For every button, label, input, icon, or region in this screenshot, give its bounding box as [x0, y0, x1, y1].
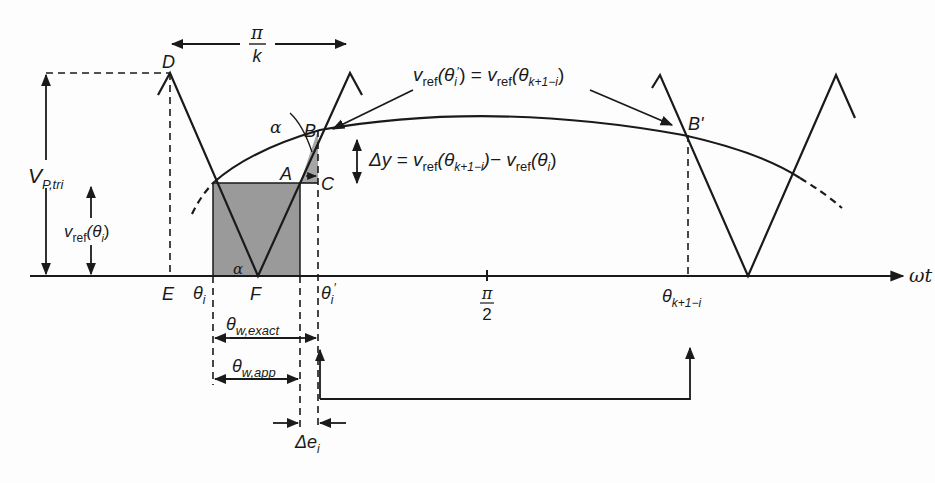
- label-theta-k1i: θk+1−i: [662, 286, 701, 310]
- pointer-to-B-prime: [590, 90, 672, 125]
- label-delta-e-i: Δei: [294, 432, 320, 456]
- diagram-svg: π k D E F A B C B' α α VP,tri vref(θi) v…: [0, 0, 935, 483]
- reference-curve-dashed-end: [800, 178, 842, 208]
- label-theta-w-app: θw,app: [232, 356, 276, 380]
- shaded-pulse-area: [213, 183, 300, 276]
- carrier-wave-right: [652, 75, 855, 276]
- label-theta-i: θi: [193, 283, 206, 307]
- label-pi-half-num: π: [481, 284, 493, 303]
- reference-curve-dashed-start: [192, 183, 213, 214]
- label-B-prime: B': [688, 114, 704, 134]
- mapping-bracket-line: [320, 348, 690, 399]
- label-theta-w-exact: θw,exact: [226, 314, 281, 338]
- label-pi-half-den: 2: [482, 305, 491, 324]
- label-B: B: [304, 121, 316, 141]
- pi-k-numerator: π: [250, 22, 264, 43]
- label-E: E: [162, 284, 175, 304]
- label-alpha-lower: α: [233, 260, 243, 278]
- label-D: D: [162, 52, 175, 72]
- label-delta-y: Δy = vref(θk+1−i)− vref(θi): [368, 149, 557, 174]
- label-A: A: [279, 164, 292, 184]
- label-vref-theta-i: vref(θi): [64, 222, 110, 245]
- label-C: C: [321, 174, 335, 194]
- label-vref-equality: vref(θi′) = vref(θk+1−i): [413, 64, 564, 89]
- label-vp-tri: VP,tri: [28, 164, 65, 192]
- label-wt: ωt: [909, 264, 932, 286]
- diagram-canvas: π k D E F A B C B' α α VP,tri vref(θi) v…: [0, 0, 935, 483]
- label-F: F: [250, 284, 262, 304]
- label-alpha-upper: α: [270, 117, 282, 137]
- label-theta-i-prime: θi′: [321, 281, 336, 307]
- pi-k-denominator: k: [253, 46, 263, 66]
